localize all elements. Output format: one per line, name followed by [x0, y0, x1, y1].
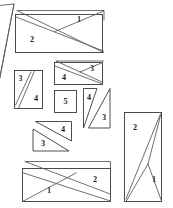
- label-right-pair-lower: 3: [102, 113, 106, 122]
- shape-triangle-pair-mid-lower: 4 3: [33, 122, 72, 152]
- shape-rect-top-large: 2 1: [16, 11, 105, 53]
- label-top-rect-main: 2: [30, 35, 34, 44]
- label-center-square: 5: [63, 97, 67, 106]
- label-mid-lower-upper: 4: [61, 125, 65, 134]
- label-tall-rect-main: 2: [133, 123, 137, 132]
- shape-rect-tall-right: 2 1: [125, 113, 162, 202]
- label-mid-upper-right: 3: [90, 64, 94, 73]
- geometry-figure: 2 1 4 3 3 4 5: [0, 0, 173, 208]
- label-tall-rect-tick: 1: [152, 175, 156, 184]
- shape-triangle-pair-right: 4 3: [84, 89, 111, 129]
- label-left-pair-lower: 4: [34, 94, 38, 103]
- label-bottom-rect-main: 2: [93, 175, 97, 184]
- label-mid-upper-left: 4: [62, 73, 66, 82]
- shape-rect-mid-upper: 4 3: [55, 61, 105, 85]
- shape-partial-triangle-left: [0, 4, 14, 108]
- shape-rect-left-pair: 3 4: [15, 71, 43, 109]
- label-mid-lower-lower: 3: [41, 139, 45, 148]
- shape-square-center: 5: [55, 91, 77, 113]
- label-right-pair-upper: 4: [87, 93, 91, 102]
- label-top-rect-tick: 1: [77, 15, 81, 24]
- label-left-pair-upper: 3: [19, 74, 23, 83]
- label-bottom-rect-tick: 1: [47, 186, 51, 195]
- shape-rect-bottom-large: 2 1: [23, 162, 111, 202]
- diagram-canvas: 2 1 4 3 3 4 5: [0, 0, 173, 208]
